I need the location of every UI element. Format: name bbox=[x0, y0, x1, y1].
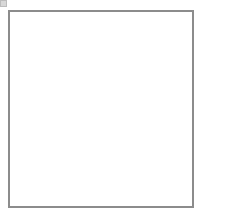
chart-grid bbox=[10, 12, 192, 206]
knitting-chart bbox=[0, 0, 229, 216]
corner-marker bbox=[0, 0, 7, 7]
chart-grid-body bbox=[10, 12, 192, 206]
chart-grid-border bbox=[8, 10, 194, 208]
row-number-column bbox=[198, 10, 229, 208]
